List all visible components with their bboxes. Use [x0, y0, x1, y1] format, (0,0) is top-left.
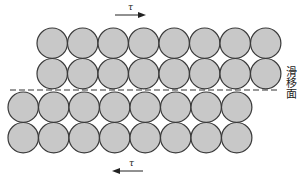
lower-atom: [222, 92, 252, 122]
slip-plane-label: 滑移面: [283, 66, 297, 99]
arrow-left-head-icon: [112, 168, 120, 174]
lower-atom: [191, 123, 221, 153]
shear-stress-top: τ: [115, 2, 146, 18]
lower-atom-block: [8, 92, 252, 153]
lower-atom: [69, 92, 99, 122]
lower-atom: [100, 123, 130, 153]
lower-atom: [161, 123, 191, 153]
upper-atom: [37, 28, 67, 58]
upper-atom: [37, 58, 67, 88]
upper-atom: [159, 28, 189, 58]
lower-atom: [100, 92, 130, 122]
lower-atom: [130, 92, 160, 122]
upper-atom-block: [37, 28, 281, 89]
lower-atom: [39, 92, 69, 122]
upper-atom: [251, 58, 281, 88]
upper-atom: [251, 28, 281, 58]
upper-atom: [98, 58, 128, 88]
lower-atom: [222, 123, 252, 153]
tau-bottom-label: τ: [129, 158, 135, 168]
lower-atom: [69, 123, 99, 153]
upper-atom: [190, 28, 220, 58]
upper-atom: [159, 58, 189, 88]
tau-top-label: τ: [128, 2, 134, 12]
upper-atom: [98, 28, 128, 58]
upper-atom: [68, 28, 98, 58]
upper-atom: [190, 58, 220, 88]
lower-atom: [161, 92, 191, 122]
slip-diagram: τ τ: [0, 0, 304, 181]
upper-atom: [220, 28, 250, 58]
lower-atom: [8, 92, 38, 122]
upper-atom: [129, 28, 159, 58]
upper-atom: [68, 58, 98, 88]
upper-atom: [220, 58, 250, 88]
lower-atom: [130, 123, 160, 153]
lower-atom: [39, 123, 69, 153]
shear-stress-bottom: τ: [112, 158, 143, 174]
lower-atom: [8, 123, 38, 153]
lower-atom: [191, 92, 221, 122]
upper-atom: [129, 58, 159, 88]
arrow-right-head-icon: [138, 12, 146, 18]
